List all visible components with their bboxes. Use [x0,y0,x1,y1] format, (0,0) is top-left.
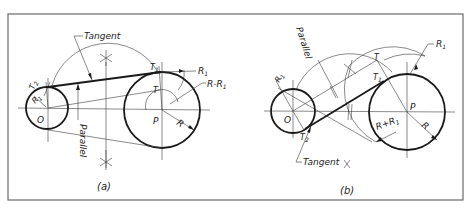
label-tangent: Tangent [84,31,121,41]
tangent-line-lower [48,130,162,148]
label-t1: T1 [150,63,159,73]
label-tangent: Tangent [303,157,340,167]
horizontal-centerline [264,111,455,112]
bisector-mark-bottom [344,160,350,168]
arrowhead [76,84,80,90]
tangent-line-upper [48,72,161,87]
tangent-construction-figure: Tangent Parallel T1 T2 T R1 R1 R-R1 R O … [0,0,473,212]
caption-b: (b) [340,185,354,196]
horizontal-centerline [18,108,210,110]
label-r1: R1 [436,39,446,50]
arrowhead [188,125,194,130]
line-o-to-t [293,60,377,111]
caption-a: (a) [97,181,111,192]
label-parallel: Parallel [294,26,314,61]
label-r1-small: R1 [273,71,286,84]
label-p: P [153,116,159,126]
label-p: P [410,102,416,112]
label-o: O [284,115,291,125]
arc-r1 [178,70,184,90]
line-o-to-t [48,90,160,108]
tangent-leader [74,36,92,80]
line-t-to-p [377,60,407,112]
label-t1: T1 [373,73,382,83]
r1-leader [410,44,434,74]
label-t: T [374,53,380,62]
label-r-minus-r1: R-R1 [207,79,227,90]
label-r: R [420,120,431,132]
label-r1: R1 [198,66,208,77]
arrowhead [88,73,92,80]
parallel-leader [318,60,338,98]
label-r-plus-r1: R+R1 [374,114,400,133]
line-o-to-t2 [293,111,304,130]
bisector-mark-top [100,50,112,66]
panel-b: Tangent Parallel T1 T2 T R1 R1 R+R1 R O … [264,26,455,196]
label-parallel: Parallel [78,124,88,158]
arrowhead [414,64,418,70]
label-o: O [37,115,44,125]
panel-a: Tangent Parallel T1 T2 T R1 R1 R-R1 R O … [18,31,227,192]
arrowhead [179,69,184,73]
bisector-mark-bottom [100,150,112,170]
